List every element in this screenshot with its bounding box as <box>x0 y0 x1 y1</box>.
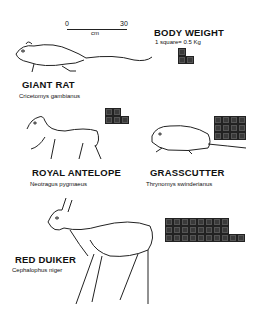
weight-square <box>165 234 173 242</box>
weight-squares-royal-antelope <box>105 108 129 124</box>
weight-square <box>222 116 230 124</box>
legend-note: 1 square= 0.5 Kg <box>155 39 201 45</box>
weight-square <box>197 218 205 226</box>
weight-square <box>238 116 246 124</box>
scale-unit: cm <box>91 30 99 36</box>
weight-squares-grasscutter <box>214 116 246 140</box>
weight-square <box>213 226 221 234</box>
weight-square <box>113 116 121 124</box>
weight-square <box>173 218 181 226</box>
weight-square <box>189 218 197 226</box>
weight-squares-red-duiker <box>165 218 245 242</box>
weight-square <box>105 116 113 124</box>
weight-square <box>221 234 229 242</box>
weight-square <box>181 226 189 234</box>
scale-bar: 0 30 cm <box>64 20 128 34</box>
giant-rat-drawing <box>14 40 144 75</box>
weight-square <box>214 132 222 140</box>
animal-name-grasscutter: GRASSCUTTER <box>150 167 225 178</box>
weight-square <box>165 218 173 226</box>
weight-square <box>121 116 129 124</box>
weight-square <box>221 226 229 234</box>
scientific-name-grasscutter: Thrynomys swinderianus <box>146 181 212 187</box>
weight-square <box>205 226 213 234</box>
weight-square <box>214 116 222 124</box>
weight-square <box>222 124 230 132</box>
weight-square <box>178 48 186 56</box>
legend-title: BODY WEIGHT <box>154 27 224 38</box>
weight-square <box>205 234 213 242</box>
weight-square <box>189 226 197 234</box>
weight-square <box>197 234 205 242</box>
weight-squares-giant-rat <box>178 48 194 64</box>
scale-zero: 0 <box>65 20 69 27</box>
red-duiker-drawing <box>40 192 160 302</box>
weight-square <box>221 218 229 226</box>
weight-square <box>205 218 213 226</box>
animal-name-royal-antelope: ROYAL ANTELOPE <box>32 167 121 178</box>
weight-square <box>105 108 113 116</box>
scientific-name-red-duiker: Cephalophus niger <box>12 267 62 273</box>
weight-square <box>173 234 181 242</box>
animal-name-giant-rat: GIANT RAT <box>22 79 75 90</box>
scientific-name-royal-antelope: Neotragus pygmaeus <box>30 181 87 187</box>
weight-square <box>237 234 245 242</box>
weight-square <box>186 56 194 64</box>
weight-square <box>113 108 121 116</box>
weight-square <box>230 116 238 124</box>
weight-square <box>238 132 246 140</box>
weight-square <box>230 124 238 132</box>
weight-square <box>213 234 221 242</box>
weight-square <box>238 124 246 132</box>
weight-square <box>230 132 238 140</box>
scientific-name-giant-rat: Cricetomys gambianus <box>19 93 80 99</box>
weight-square <box>229 234 237 242</box>
weight-square <box>222 132 230 140</box>
weight-square <box>181 218 189 226</box>
scale-max: 30 <box>120 20 128 27</box>
weight-square <box>197 226 205 234</box>
weight-square <box>178 56 186 64</box>
weight-square <box>181 234 189 242</box>
animal-name-red-duiker: RED DUIKER <box>15 254 76 265</box>
weight-square <box>213 218 221 226</box>
royal-antelope-drawing <box>25 113 105 163</box>
weight-square <box>173 226 181 234</box>
weight-square <box>165 226 173 234</box>
weight-square <box>214 124 222 132</box>
weight-square <box>189 234 197 242</box>
